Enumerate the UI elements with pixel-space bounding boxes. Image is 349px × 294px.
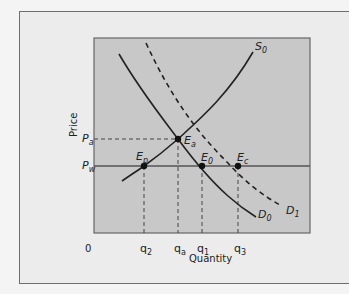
q3-tick-label: q3 (234, 242, 246, 257)
qa-tick-label: qa (174, 242, 186, 257)
y-axis-title: Price (68, 113, 79, 137)
pa-tick-label: Pa (82, 132, 94, 147)
origin-label: 0 (85, 243, 91, 254)
ea-point (175, 136, 181, 142)
q2-tick-label: q2 (140, 242, 152, 257)
x-axis-title: Quantity (189, 253, 232, 264)
